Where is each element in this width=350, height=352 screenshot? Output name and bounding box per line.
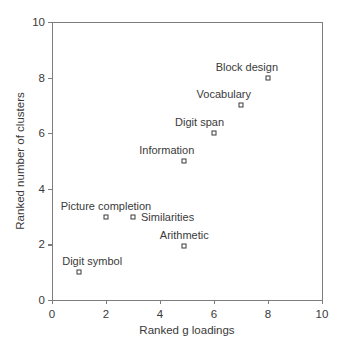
data-point-label: Digit symbol xyxy=(62,255,122,267)
y-tick-mark xyxy=(48,22,52,23)
x-tick-mark xyxy=(106,300,107,304)
x-tick-mark xyxy=(322,300,323,304)
x-axis-title: Ranked g loadings xyxy=(52,324,322,336)
data-point-label: Picture completion xyxy=(61,200,152,212)
y-tick-label: 2 xyxy=(39,238,45,250)
data-point-marker[interactable] xyxy=(77,270,82,275)
data-point-marker[interactable] xyxy=(182,243,187,248)
y-tick-mark xyxy=(48,189,52,190)
data-point-label: Information xyxy=(139,144,194,156)
top-spine-line xyxy=(52,22,323,23)
x-tick-label: 6 xyxy=(211,308,217,320)
x-tick-label: 8 xyxy=(265,308,271,320)
x-tick-mark xyxy=(160,300,161,304)
data-point-marker[interactable] xyxy=(266,75,271,80)
data-point-marker[interactable] xyxy=(239,103,244,108)
data-point-marker[interactable] xyxy=(182,159,187,164)
y-tick-mark xyxy=(48,244,52,245)
y-tick-label: 4 xyxy=(39,183,45,195)
data-point-marker[interactable] xyxy=(212,131,217,136)
x-tick-label: 4 xyxy=(157,308,163,320)
x-tick-mark xyxy=(268,300,269,304)
scatter-chart-figure: 0246810 0246810 Block designVocabularyDi… xyxy=(0,0,350,352)
data-point-label: Arithmetic xyxy=(160,229,209,241)
y-tick-mark xyxy=(48,133,52,134)
y-tick-label: 0 xyxy=(39,294,45,306)
x-tick-mark xyxy=(214,300,215,304)
data-point-label: Vocabulary xyxy=(197,88,251,100)
right-spine-line xyxy=(322,22,323,300)
data-point-label: Block design xyxy=(216,61,278,73)
y-tick-label: 8 xyxy=(39,72,45,84)
data-point-marker[interactable] xyxy=(104,214,109,219)
x-tick-label: 0 xyxy=(49,308,55,320)
data-point-label: Digit span xyxy=(175,116,224,128)
x-tick-mark xyxy=(52,300,53,304)
y-tick-label: 6 xyxy=(39,127,45,139)
plot-area: 0246810 0246810 Block designVocabularyDi… xyxy=(52,22,322,300)
y-tick-mark xyxy=(48,78,52,79)
x-tick-label: 10 xyxy=(316,308,329,320)
y-tick-label: 10 xyxy=(32,16,45,28)
x-tick-label: 2 xyxy=(103,308,109,320)
y-axis-line xyxy=(52,22,53,300)
x-axis-line xyxy=(52,300,322,301)
y-axis-title: Ranked number of clusters xyxy=(14,22,30,300)
data-point-marker[interactable] xyxy=(131,214,136,219)
data-point-label: Similarities xyxy=(141,211,194,223)
